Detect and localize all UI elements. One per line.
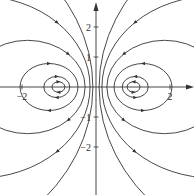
trajectory-curve xyxy=(0,0,93,195)
trajectory-curve xyxy=(99,0,194,195)
y-tick-label: 2 xyxy=(86,22,91,33)
trajectory-curves xyxy=(0,0,194,195)
trajectory-curve xyxy=(0,0,90,178)
y-axis-arrow-icon xyxy=(94,2,99,11)
direction-arrow-icon xyxy=(133,96,137,100)
direction-arrow-icon xyxy=(141,62,145,66)
direction-arrow-icon xyxy=(47,62,51,66)
y-tick-label: −1 xyxy=(80,112,91,123)
direction-arrow-icon xyxy=(57,90,61,94)
direction-arrow-icon xyxy=(132,80,136,84)
direction-arrow-icon xyxy=(47,109,51,113)
x-tick-label: 2 xyxy=(168,91,173,102)
direction-arrow-icon xyxy=(141,109,145,113)
x-axis-arrow-icon xyxy=(186,85,194,90)
y-tick-label: 1 xyxy=(86,52,91,63)
direction-arrow-icon xyxy=(55,96,59,100)
y-tick-label: −2 xyxy=(80,142,91,153)
axes xyxy=(0,2,194,195)
phase-portrait-diagram: −2221−1−2 xyxy=(0,0,194,195)
plot-canvas: −2221−1−2 xyxy=(0,0,194,195)
direction-arrow-icon xyxy=(133,75,137,79)
direction-arrow-icon xyxy=(57,80,61,84)
x-tick-label: −2 xyxy=(17,91,28,102)
direction-arrow-icon xyxy=(132,90,136,94)
direction-arrow-icon xyxy=(55,75,59,79)
